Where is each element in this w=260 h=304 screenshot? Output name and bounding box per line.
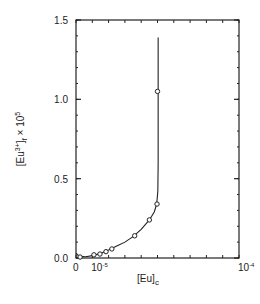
data-point-marker bbox=[155, 89, 159, 93]
y-tick-label: 0.0 bbox=[54, 253, 68, 264]
x-axis-label: [Eu]c bbox=[137, 273, 159, 287]
data-point-marker bbox=[132, 234, 136, 238]
data-point-marker bbox=[104, 249, 108, 253]
data-point-marker bbox=[147, 218, 151, 222]
x-tick-label: 10-5 bbox=[91, 262, 108, 273]
axis-ticks bbox=[76, 20, 239, 258]
y-tick-label: 1.0 bbox=[54, 94, 68, 105]
tick-labels: 0.00.51.01.5010-510-4 bbox=[54, 15, 255, 273]
y-tick-label: 0.5 bbox=[54, 174, 68, 185]
data-point-marker bbox=[78, 255, 82, 259]
x-tick-label: 10-4 bbox=[238, 262, 255, 273]
y-tick-label: 1.5 bbox=[54, 15, 68, 26]
fit-curve bbox=[76, 37, 158, 256]
chart: 0.00.51.01.5010-510-4 [Eu]c [Eu3+]f × 10… bbox=[0, 0, 260, 304]
y-axis-label: [Eu3+]f × 105 bbox=[14, 112, 29, 167]
plot-frame bbox=[76, 20, 239, 258]
data-series bbox=[76, 37, 160, 259]
data-point-marker bbox=[98, 252, 102, 256]
data-point-marker bbox=[155, 202, 159, 206]
data-point-marker bbox=[110, 247, 114, 251]
x-tick-label: 0 bbox=[73, 262, 79, 273]
data-point-marker bbox=[92, 253, 96, 257]
